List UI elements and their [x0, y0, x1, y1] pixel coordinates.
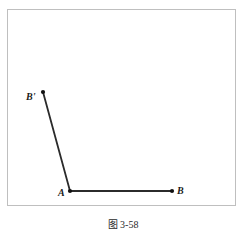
point-label-a: A: [58, 188, 65, 198]
segment-a-to-b-prime: [43, 92, 70, 191]
figure-caption: 图 3-58: [0, 219, 246, 231]
geometry-diagram: [0, 0, 246, 232]
point-label-b: B: [177, 186, 184, 196]
point-label-b-prime: B': [26, 92, 35, 102]
point-b-dot: [170, 189, 174, 193]
point-a-dot: [68, 189, 72, 193]
figure-container: B' A B 图 3-58: [0, 0, 246, 232]
point-b-prime-dot: [41, 90, 45, 94]
